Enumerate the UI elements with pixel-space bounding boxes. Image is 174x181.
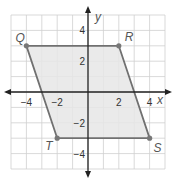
y-tick-label: −2 bbox=[74, 118, 86, 129]
vertex-point bbox=[55, 136, 60, 141]
x-tick-label: 4 bbox=[147, 97, 153, 108]
x-tick-label: 2 bbox=[116, 97, 122, 108]
y-tick-label: 4 bbox=[79, 25, 85, 36]
vertex-label: T bbox=[45, 139, 54, 153]
vertex-point bbox=[147, 136, 152, 141]
x-tick-label: −2 bbox=[51, 97, 63, 108]
vertex-label: R bbox=[125, 30, 134, 44]
coordinate-plane: y x −4−22442−2−4 QRST bbox=[0, 0, 174, 181]
vertex-label: Q bbox=[15, 31, 24, 45]
x-axis-right-arrow-icon bbox=[165, 89, 172, 95]
y-tick-label: 2 bbox=[79, 56, 85, 67]
y-axis-down-arrow-icon bbox=[85, 171, 91, 178]
vertex-point bbox=[116, 43, 121, 48]
y-axis-up-arrow-icon bbox=[85, 6, 91, 13]
y-axis-label: y bbox=[94, 10, 102, 24]
x-axis-label: x bbox=[156, 93, 164, 107]
vertex-label: S bbox=[154, 141, 162, 155]
axes: y x bbox=[4, 6, 172, 178]
y-tick-label: −4 bbox=[74, 149, 86, 160]
x-tick-label: −4 bbox=[21, 97, 33, 108]
x-axis-left-arrow-icon bbox=[4, 89, 11, 95]
